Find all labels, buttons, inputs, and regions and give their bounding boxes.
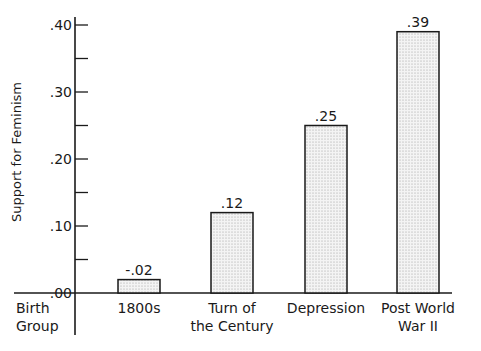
category-label: War II: [398, 318, 438, 334]
y-tick-label: .00: [50, 285, 72, 301]
bar-value-label: -.02: [125, 262, 152, 278]
bars: [118, 32, 439, 293]
x-axis-title-line1: Birth: [16, 300, 50, 316]
y-tick-label: .30: [50, 84, 72, 100]
category-label: 1800s: [118, 300, 161, 316]
y-tick-label: .40: [50, 17, 72, 33]
category-label: the Century: [190, 318, 273, 334]
bar-turn-of-the-century: [211, 213, 253, 293]
x-axis-title-line2: Group: [16, 318, 59, 334]
category-label: Depression: [287, 300, 365, 316]
bar-depression: [305, 126, 347, 294]
y-tick-label: .10: [50, 218, 72, 234]
bar-value-label: .39: [407, 14, 429, 30]
bar-value-label: .25: [315, 108, 337, 124]
bar-chart: .00.10.20.30.40 Support for FeminismBirt…: [0, 0, 481, 351]
y-axis-title: Support for Feminism: [9, 82, 24, 222]
bar-value-label: .12: [221, 195, 243, 211]
category-label: Turn of: [207, 300, 257, 316]
y-tick-label: .20: [50, 151, 72, 167]
bar-1800s: [118, 280, 160, 293]
bar-post-world-war-ii: [397, 32, 439, 293]
category-label: Post World: [381, 300, 455, 316]
